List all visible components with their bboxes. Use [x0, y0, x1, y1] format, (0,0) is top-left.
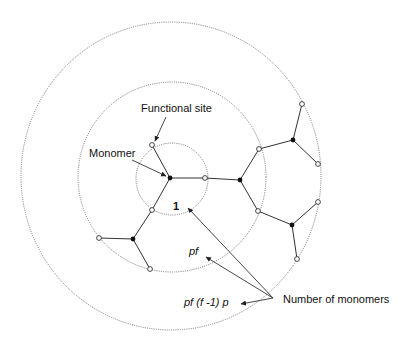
functional-sites [97, 102, 321, 272]
monomer-center [168, 176, 173, 181]
count-arrow-gen0 [188, 208, 273, 298]
monomer-right [238, 178, 243, 183]
monomer-label: Monomer [89, 147, 136, 159]
functional-site-label: Functional site [141, 102, 212, 114]
bonds [99, 104, 318, 269]
monomer-arrow [132, 160, 166, 176]
monomer-upper-right [291, 138, 296, 143]
branching-diagram: Functional site Monomer 1 pf pf (f -1) p… [0, 0, 405, 346]
number-of-monomers-label: Number of monomers [283, 293, 390, 305]
functional-site-arrow [155, 117, 166, 141]
gen1-count-label: pf [188, 245, 199, 257]
monomers [131, 138, 296, 242]
count-arrow-gen2 [241, 298, 273, 304]
gen2-count-label: pf (f -1) p [183, 296, 229, 308]
monomer-lower-right [290, 223, 295, 228]
gen0-count-label: 1 [173, 200, 179, 212]
monomer-lower-left [131, 237, 136, 242]
